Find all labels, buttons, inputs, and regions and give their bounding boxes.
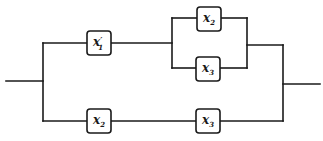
switching-circuit-diagram: x′1 x2 x3 x2 x3 bbox=[0, 0, 323, 141]
switch-x1-prime: x′1 bbox=[87, 31, 111, 55]
switch-x2-lower: x2 bbox=[87, 109, 111, 133]
switch-x3-lower: x3 bbox=[196, 109, 220, 133]
switch-x3-parallel: x3 bbox=[196, 57, 220, 81]
switch-x2-parallel: x2 bbox=[197, 7, 221, 31]
